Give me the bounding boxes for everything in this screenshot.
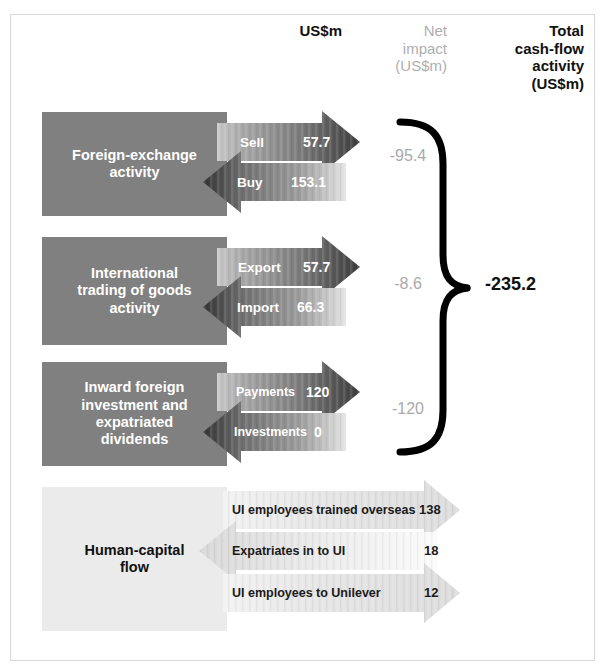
section-box-inward-investment: Inward foreign investment and expatriate…	[42, 362, 227, 466]
diagram-canvas: US$m Net impact (US$m) Total cash-flow a…	[0, 0, 607, 671]
section-label: Foreign-exchange activity	[72, 147, 197, 182]
header-net-impact: Net impact (US$m)	[352, 22, 447, 75]
flow-label-expatriates-in: Expatriates in to UI	[232, 544, 345, 558]
flow-value-export: 57.7	[303, 259, 330, 275]
total-cash-flow-value: -235.2	[485, 274, 536, 295]
flow-label-investments: Investments	[234, 425, 307, 439]
flow-value-sell: 57.7	[303, 134, 330, 150]
section-box-international-trading: International trading of goods activity	[42, 237, 227, 345]
flow-label-to-unilever: UI employees to Unilever	[232, 586, 381, 600]
flow-value-buy: 153.1	[291, 174, 326, 190]
flow-value-investments: 0	[314, 424, 322, 440]
net-impact-international-trading: -8.6	[368, 275, 448, 293]
flow-label-sell: Sell	[240, 135, 264, 150]
net-impact-foreign-exchange: -95.4	[368, 147, 448, 165]
section-label: International trading of goods activity	[77, 265, 191, 317]
section-box-human-capital: Human-capital flow	[42, 487, 227, 631]
flow-label-import: Import	[237, 300, 279, 315]
net-impact-inward-investment: -120	[368, 400, 448, 418]
section-label: Human-capital flow	[85, 542, 185, 577]
flow-label-export: Export	[238, 260, 281, 275]
header-total-cash-flow: Total cash-flow activity (US$m)	[440, 22, 584, 93]
flow-value-to-unilever: 12	[424, 585, 438, 600]
flow-label-payments: Payments	[236, 385, 295, 399]
flow-value-trained-overseas: 138	[419, 502, 441, 517]
flow-value-import: 66.3	[297, 299, 324, 315]
flow-value-payments: 120	[306, 384, 329, 400]
flow-value-expatriates-in: 18	[424, 543, 438, 558]
header-usm: US$m	[232, 22, 342, 40]
section-label: Inward foreign investment and expatriate…	[81, 379, 187, 449]
section-box-foreign-exchange: Foreign-exchange activity	[42, 112, 227, 216]
flow-label-buy: Buy	[237, 175, 263, 190]
flow-label-trained-overseas: UI employees trained overseas	[232, 503, 415, 517]
